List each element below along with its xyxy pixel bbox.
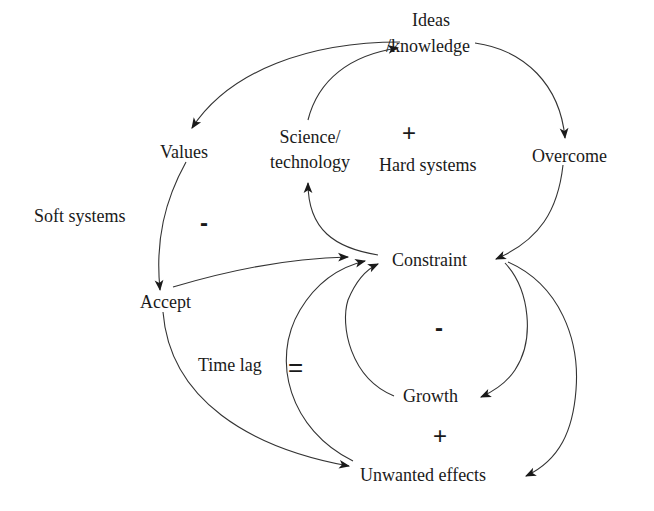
node-unwanted-label: Unwanted effects — [360, 465, 486, 485]
node-ideas-line2: /knowledge — [386, 36, 470, 56]
delay-label-time-lag: Time lag — [198, 354, 262, 376]
edge-growth-to-constraint — [345, 264, 394, 396]
node-overcome-label: Overcome — [532, 146, 607, 166]
node-science-line1: Science/ — [255, 126, 365, 148]
hard-systems-label: Hard systems — [379, 155, 477, 175]
node-science-line2: technology — [255, 151, 365, 173]
loop-label-soft-systems: Soft systems — [34, 205, 126, 227]
edge-constraint-to-unwanted — [508, 262, 576, 476]
edge-values-to-accept — [159, 162, 186, 290]
delay-mark: = — [288, 355, 303, 379]
node-values-label: Values — [160, 142, 208, 162]
edge-ideas-to-overcome — [475, 43, 565, 138]
node-ideas-line1: Ideas — [412, 10, 450, 30]
node-constraint: Constraint — [392, 249, 467, 271]
node-growth-label: Growth — [403, 386, 458, 406]
node-unwanted-effects: Unwanted effects — [360, 464, 486, 486]
unwanted-loop-sign: + — [433, 424, 447, 448]
edge-constraint-to-growth — [481, 263, 527, 397]
node-accept-label: Accept — [140, 292, 191, 312]
soft-systems-label: Soft systems — [34, 206, 126, 226]
growth-loop-sign: - — [435, 316, 443, 340]
node-accept: Accept — [140, 291, 191, 313]
edge-science-to-ideas — [308, 48, 398, 120]
node-constraint-label: Constraint — [392, 250, 467, 270]
soft-loop-sign: - — [200, 211, 208, 235]
node-science-technology: Science/ technology — [255, 126, 365, 173]
edge-constraint-to-science — [308, 183, 378, 255]
edge-accept-to-unwanted — [163, 312, 349, 466]
node-knowledge: /knowledge — [386, 35, 470, 57]
node-values: Values — [160, 141, 208, 163]
edge-accept-to-constraint — [173, 257, 348, 287]
node-growth: Growth — [403, 385, 458, 407]
causal-loop-diagram — [0, 0, 654, 511]
node-overcome: Overcome — [532, 145, 607, 167]
hard-loop-sign: + — [402, 121, 416, 145]
edge-overcome-to-constraint — [496, 165, 563, 259]
time-lag-label: Time lag — [198, 355, 262, 375]
node-ideas: Ideas — [412, 9, 450, 31]
loop-label-hard-systems: Hard systems — [379, 154, 477, 176]
